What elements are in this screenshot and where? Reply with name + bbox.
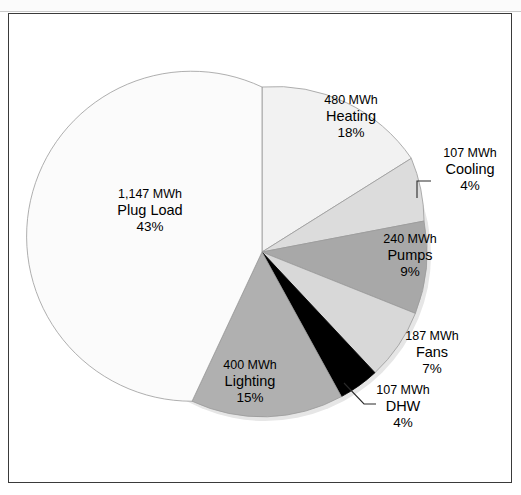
slice-name-heating: Heating bbox=[296, 108, 406, 125]
slice-label-lighting: 400 MWh Lighting 15% bbox=[196, 358, 304, 406]
slice-label-dhw: 107 MWh DHW 4% bbox=[357, 383, 449, 431]
slice-name-plug-load: Plug Load bbox=[88, 202, 212, 219]
slice-percent-heating: 18% bbox=[296, 125, 406, 141]
slice-value-fans: 187 MWh bbox=[386, 329, 478, 344]
slice-label-pumps: 240 MWh Pumps 9% bbox=[364, 232, 456, 280]
slice-label-plug-load: 1,147 MWh Plug Load 43% bbox=[88, 187, 212, 235]
slice-name-lighting: Lighting bbox=[196, 373, 304, 390]
slice-percent-fans: 7% bbox=[386, 361, 478, 377]
slice-name-cooling: Cooling bbox=[424, 161, 516, 178]
slice-percent-dhw: 4% bbox=[357, 415, 449, 431]
slice-value-heating: 480 MWh bbox=[296, 93, 406, 108]
pie-chart: 480 MWh Heating 18% 107 MWh Cooling 4% 2… bbox=[0, 0, 521, 495]
slice-percent-pumps: 9% bbox=[364, 264, 456, 280]
slice-value-plug-load: 1,147 MWh bbox=[88, 187, 212, 202]
slice-value-dhw: 107 MWh bbox=[357, 383, 449, 398]
slice-value-cooling: 107 MWh bbox=[424, 146, 516, 161]
screenshot-root: 480 MWh Heating 18% 107 MWh Cooling 4% 2… bbox=[0, 0, 521, 495]
slice-name-dhw: DHW bbox=[357, 398, 449, 415]
slice-percent-plug-load: 43% bbox=[88, 219, 212, 235]
slice-value-lighting: 400 MWh bbox=[196, 358, 304, 373]
slice-label-fans: 187 MWh Fans 7% bbox=[386, 329, 478, 377]
slice-percent-cooling: 4% bbox=[424, 178, 516, 194]
slice-name-fans: Fans bbox=[386, 344, 478, 361]
slice-value-pumps: 240 MWh bbox=[364, 232, 456, 247]
slice-percent-lighting: 15% bbox=[196, 390, 304, 406]
slice-label-cooling: 107 MWh Cooling 4% bbox=[424, 146, 516, 194]
slice-name-pumps: Pumps bbox=[364, 247, 456, 264]
slice-label-heating: 480 MWh Heating 18% bbox=[296, 93, 406, 141]
